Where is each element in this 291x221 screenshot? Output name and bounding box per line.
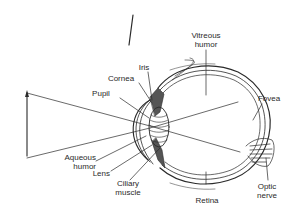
label-aqueous-line1: Aqueous	[60, 153, 96, 162]
label-ciliary-line2: muscle	[110, 188, 146, 197]
cornea	[133, 97, 155, 164]
label-vitreous-line2: humor	[186, 40, 226, 49]
label-optic-line1: Optic	[250, 182, 284, 191]
label-fovea: Fovea	[254, 94, 284, 103]
label-pupil: Pupil	[86, 89, 116, 98]
label-vitreous-line1: Vitreous	[186, 31, 226, 40]
label-optic-line2: nerve	[250, 191, 284, 200]
eye-diagram: Iris Cornea Pupil Vitreous humor Fovea A…	[0, 0, 291, 221]
label-iris: Iris	[132, 63, 156, 72]
label-ciliary-line1: Ciliary	[110, 179, 146, 188]
label-retina: Retina	[190, 196, 224, 205]
label-ciliary-muscle: Ciliary muscle	[110, 179, 146, 197]
object-arrow	[25, 90, 29, 156]
eyeball-wall	[158, 58, 270, 189]
label-vitreous-humor: Vitreous humor	[186, 31, 226, 49]
label-lens: Lens	[88, 169, 110, 178]
label-cornea: Cornea	[104, 74, 138, 83]
label-optic-nerve: Optic nerve	[250, 182, 284, 200]
inverted-image-line	[129, 15, 133, 45]
